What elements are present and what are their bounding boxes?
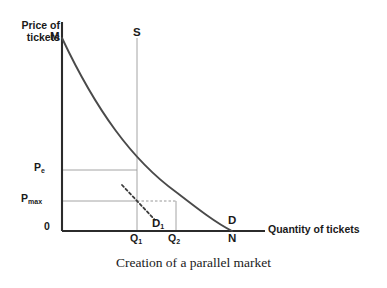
label-price-equilibrium-subscript: e [41,167,45,174]
figure-caption: Creation of a parallel market [0,255,387,271]
label-demand-curve: D [228,214,236,227]
label-demand-bottom: N [228,232,236,245]
label-quantity-2-base: Q [168,232,176,244]
label-price-max: Pmax [21,193,42,205]
label-quantity-2-subscript: 2 [176,238,180,245]
label-price-equilibrium: Pe [34,162,45,174]
label-demand-top: M [50,30,60,43]
label-quantity-1: Q1 [130,233,142,245]
label-parallel-demand-subscript: 1 [160,223,164,230]
label-price-max-base: P [21,192,28,204]
economics-diagram: Price of tickets Quantity of tickets M S… [0,0,387,288]
label-quantity-1-subscript: 1 [138,238,142,245]
demand-curve [62,38,232,231]
label-quantity-1-base: Q [130,232,138,244]
quantity-axis-title: Quantity of tickets [268,224,360,236]
label-supply-curve: S [133,26,141,39]
label-price-equilibrium-base: P [34,161,41,173]
label-quantity-2: Q2 [168,233,180,245]
label-parallel-demand: D1 [152,217,164,230]
label-origin: 0 [44,221,50,233]
label-price-max-subscript: max [28,198,42,205]
parallel-demand-curve [122,185,155,220]
